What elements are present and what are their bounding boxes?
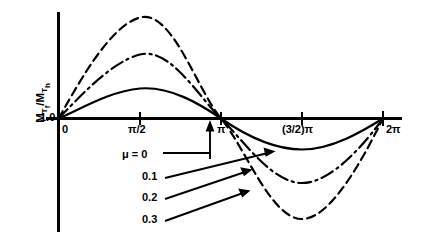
x-tick-label-pi: π bbox=[217, 124, 225, 135]
annotation-mu-0: μ = 0 bbox=[122, 148, 147, 160]
chart-canvas bbox=[0, 0, 425, 244]
arrowhead-mu-0-3 bbox=[238, 189, 250, 198]
annotation-mu-0-2: 0.2 bbox=[142, 191, 157, 203]
leader-mu-0-1 bbox=[165, 153, 268, 178]
arrowhead-mu-0-2 bbox=[240, 167, 252, 176]
y-axis-label: MTf/MTh bbox=[34, 68, 48, 138]
leader-mu-0 bbox=[163, 153, 210, 159]
x-tick-label-2-pi: 2π bbox=[386, 124, 401, 135]
chart-figure: MTf/MTh 1.0 0 π/2 π (3/2)π 2π μ = 0 0.1 … bbox=[0, 0, 425, 244]
annotation-mu-0-3: 0.3 bbox=[142, 213, 157, 225]
annotation-mu-0-1: 0.1 bbox=[142, 170, 157, 182]
x-tick-label-0: 0 bbox=[62, 124, 68, 135]
y-tick-label-1-0: 1.0 bbox=[40, 112, 55, 123]
leader-mu-0-3 bbox=[165, 193, 243, 221]
arrowhead-mu-0-1 bbox=[264, 148, 276, 157]
x-tick-label-3-over-2-pi: (3/2)π bbox=[282, 124, 313, 135]
x-tick-label-pi-over-2: π/2 bbox=[128, 124, 146, 135]
